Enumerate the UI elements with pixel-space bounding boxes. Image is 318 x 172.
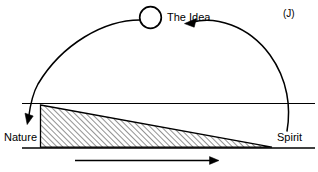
arrow-down-left-icon bbox=[25, 113, 33, 124]
figure-tag-label: (J) bbox=[283, 9, 295, 19]
arrow-right-icon bbox=[210, 157, 220, 165]
arc-left-branch bbox=[29, 20, 140, 118]
diagram-canvas bbox=[0, 0, 318, 172]
diagram-figure: The Idea Nature Spirit (J) bbox=[0, 0, 318, 172]
nature-label: Nature bbox=[4, 132, 37, 143]
arc-right-branch bbox=[192, 20, 289, 131]
idea-circle-icon bbox=[140, 7, 162, 29]
spirit-label: Spirit bbox=[277, 132, 302, 143]
idea-label: The Idea bbox=[167, 12, 210, 23]
